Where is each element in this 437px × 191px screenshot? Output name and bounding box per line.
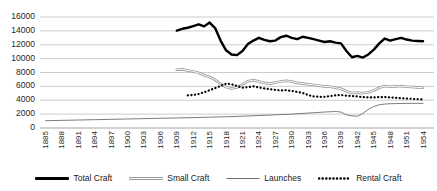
legend-item[interactable]: Small Craft xyxy=(129,173,209,183)
double-solid-swatch xyxy=(129,174,163,183)
y-tick-label: 16000 xyxy=(0,12,35,21)
x-tick-label: 1891 xyxy=(74,131,83,149)
x-tick-label: 1888 xyxy=(57,131,66,149)
legend-item[interactable]: Launches xyxy=(226,173,301,183)
series-line xyxy=(177,69,423,93)
legend-label: Launches xyxy=(264,173,301,183)
x-tick-label: 1912 xyxy=(189,131,198,149)
gridlines xyxy=(40,17,434,128)
x-tick-label: 1918 xyxy=(222,131,231,149)
x-tick-label: 1951 xyxy=(402,131,411,149)
x-tick-label: 1948 xyxy=(386,131,395,149)
y-tick-label: 12000 xyxy=(0,40,35,49)
thin-solid-swatch xyxy=(226,174,260,183)
y-tick-label: 6000 xyxy=(0,81,35,90)
y-tick-label: 8000 xyxy=(0,68,35,77)
legend-label: Small Craft xyxy=(167,173,209,183)
x-tick-label: 1921 xyxy=(238,131,247,149)
x-tick-label: 1936 xyxy=(320,131,329,149)
y-tick-label: 4000 xyxy=(0,95,35,104)
x-tick-label: 1897 xyxy=(107,131,116,149)
y-tick-label: 0 xyxy=(0,123,35,132)
x-tick-label: 1954 xyxy=(419,131,428,149)
dotted-swatch xyxy=(318,174,352,183)
legend-label: Rental Craft xyxy=(356,173,401,183)
line-chart: 0200040006000800010000120001400016000 18… xyxy=(0,0,437,191)
y-tick-label: 2000 xyxy=(0,109,35,118)
x-tick-label: 1927 xyxy=(271,131,280,149)
x-tick-label: 1945 xyxy=(369,131,378,149)
legend-item[interactable]: Rental Craft xyxy=(318,173,401,183)
series-lines xyxy=(45,23,423,121)
series-line xyxy=(45,103,423,120)
x-tick-label: 1933 xyxy=(304,131,313,149)
x-tick-label: 1942 xyxy=(353,131,362,149)
y-tick-label: 14000 xyxy=(0,26,35,35)
series-line xyxy=(177,23,423,58)
chart-legend: Total CraftSmall CraftLaunchesRental Cra… xyxy=(0,165,437,191)
series-line xyxy=(177,69,423,93)
x-tick-label: 1906 xyxy=(156,131,165,149)
x-tick-label: 1909 xyxy=(172,131,181,149)
thick-solid-swatch xyxy=(35,174,69,183)
x-tick-label: 1939 xyxy=(336,131,345,149)
legend-item[interactable]: Total Craft xyxy=(35,173,112,183)
x-tick-label: 1885 xyxy=(41,131,50,149)
x-tick-label: 1924 xyxy=(254,131,263,149)
legend-label: Total Craft xyxy=(73,173,112,183)
x-tick-label: 1930 xyxy=(287,131,296,149)
x-tick-label: 1894 xyxy=(90,131,99,149)
y-tick-label: 10000 xyxy=(0,54,35,63)
plot-area xyxy=(0,0,437,191)
x-tick-label: 1915 xyxy=(205,131,214,149)
x-tick-label: 1903 xyxy=(139,131,148,149)
x-tick-label: 1900 xyxy=(123,131,132,149)
